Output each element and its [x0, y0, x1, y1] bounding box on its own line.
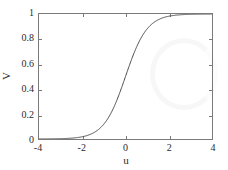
y-tick-label-0.8: 0.8	[22, 33, 35, 43]
x-tick-label--2: -2	[78, 143, 86, 153]
y-tick-label-0.6: 0.6	[22, 59, 35, 69]
y-tick-label-1: 1	[29, 8, 34, 18]
sigmoid-curve	[39, 14, 212, 139]
y-axis-label: V	[1, 72, 12, 80]
x-axis-label: u	[123, 155, 129, 166]
plot-area	[38, 13, 213, 140]
x-tick-label-4: 4	[211, 143, 216, 153]
y-tick-label-0.2: 0.2	[22, 110, 35, 120]
x-tick-label-0: 0	[123, 143, 128, 153]
sigmoid-figure: 1 0.8 0.6 0.4 0.2 0 -4 -2 0 2 4 u V	[0, 0, 228, 170]
x-tick-label--4: -4	[34, 143, 42, 153]
x-tick-label-2: 2	[167, 143, 172, 153]
y-tick-label-0.4: 0.4	[22, 84, 35, 94]
